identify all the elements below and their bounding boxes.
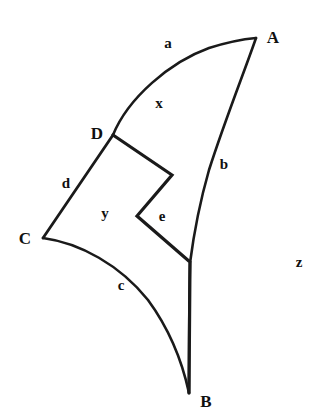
vertex-label-A: A	[267, 29, 279, 46]
figure-canvas: A B C D a b c d x y e z	[0, 0, 323, 417]
curve-a-D-to-A	[113, 38, 256, 135]
segment-d-D-to-C	[43, 135, 113, 238]
vertex-label-C: C	[19, 230, 31, 247]
edge-label-b: b	[220, 157, 228, 172]
region-label-y: y	[101, 206, 109, 221]
curve-b-A-to-B	[189, 38, 256, 393]
vertex-label-D: D	[91, 125, 103, 142]
edge-label-a: a	[164, 36, 172, 51]
region-label-e: e	[159, 209, 166, 224]
region-label-x: x	[155, 96, 163, 111]
curve-c-C-to-B	[43, 238, 189, 393]
region-label-z: z	[296, 255, 303, 270]
vertex-label-B: B	[200, 393, 211, 410]
edge-label-c: c	[118, 278, 125, 293]
edge-label-d: d	[62, 176, 70, 191]
